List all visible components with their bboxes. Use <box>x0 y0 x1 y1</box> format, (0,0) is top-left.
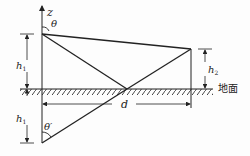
h1-image-label: h1 <box>16 113 26 125</box>
distance-label: d <box>121 98 128 111</box>
ground-surface <box>20 89 213 95</box>
theta-prime-label: θ′ <box>44 121 53 132</box>
h1-source-label: h1 <box>16 60 26 72</box>
incident-ray <box>42 34 127 89</box>
theta-label: θ <box>51 18 57 29</box>
theta-prime-arc <box>42 132 51 137</box>
direct-ray <box>42 34 191 49</box>
h2-label: h2 <box>208 64 218 76</box>
ground-reflection-diagram: z θ θ′ h1 h1 h2 d 地面 <box>0 0 250 156</box>
ground-label: 地面 <box>218 82 238 94</box>
reflected-ray <box>127 49 191 89</box>
theta-arc <box>42 27 49 31</box>
image-ray <box>42 89 127 143</box>
diagram-canvas: z θ θ′ h1 h1 h2 d 地面 <box>0 0 250 156</box>
